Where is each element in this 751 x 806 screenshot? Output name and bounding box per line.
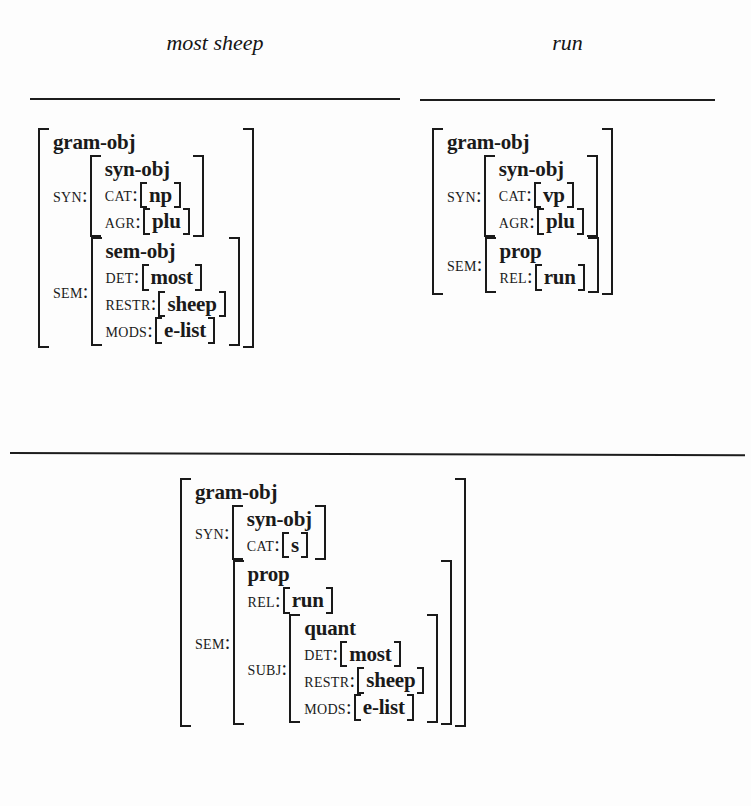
attr-label: MODS [304, 696, 353, 720]
value-text: plu [544, 208, 577, 235]
feature-agr: AGR plu [105, 208, 190, 235]
feature-cat: CAT np [105, 182, 190, 209]
rule-middle [10, 452, 745, 456]
value-text: e-list [162, 317, 208, 344]
rule-right [420, 99, 715, 101]
value-text: sheep [165, 291, 218, 318]
value-text: np [147, 182, 174, 209]
bracket-open [282, 532, 289, 559]
attr-label: SEM [447, 253, 484, 277]
attr-label: REL [248, 589, 282, 613]
bracket-open [38, 128, 49, 348]
bracket-open [180, 478, 191, 727]
avm-body: syn-obj CAT s [243, 505, 315, 561]
bracket-open [142, 264, 149, 291]
attr-label: AGR [105, 210, 142, 234]
value-text: plu [150, 208, 183, 235]
feature-sem: SEM prop REL run [447, 237, 599, 293]
type-label: prop [248, 562, 439, 587]
avm-prop: prop REL run SUBJ [233, 560, 453, 725]
atomic-value: plu [143, 208, 190, 235]
bracket-close [455, 478, 466, 727]
atomic-value: e-list [354, 694, 414, 721]
feature-mods: MODS e-list [304, 694, 424, 721]
bracket-close [407, 694, 414, 721]
atomic-value: e-list [155, 317, 215, 344]
bracket-close [315, 505, 326, 561]
avm-body: gram-obj SYN syn-obj CAT vp [443, 128, 602, 295]
value-text: run [542, 264, 578, 291]
type-label: syn-obj [247, 507, 312, 532]
rule-left [30, 98, 400, 100]
feature-syn: SYN syn-obj CAT s [195, 505, 452, 561]
value-text: vp [541, 182, 567, 209]
type-label: prop [500, 239, 585, 264]
avm-sentence: gram-obj SYN syn-obj CAT s [180, 478, 466, 727]
type-label: syn-obj [499, 157, 584, 182]
bracket-close [578, 264, 585, 291]
attr-label: RESTR [304, 669, 356, 693]
type-label: quant [304, 616, 424, 641]
avm-quant: quant DET most [289, 614, 438, 723]
type-label: syn-obj [105, 157, 190, 182]
atomic-value: run [283, 587, 333, 614]
avm-body: syn-obj CAT np AGR plu [101, 155, 193, 237]
attr-label: SYN [195, 521, 231, 545]
bracket-close [394, 641, 401, 668]
feature-det: DET most [106, 264, 226, 291]
attr-label: SYN [53, 184, 89, 208]
bracket-close [417, 667, 424, 694]
bracket-open [91, 237, 102, 346]
atomic-value: plu [537, 208, 584, 235]
avm-syn-obj: syn-obj CAT np AGR plu [90, 155, 204, 237]
value-text: s [289, 532, 301, 559]
type-label: sem-obj [106, 239, 226, 264]
attr-label: RESTR [106, 292, 158, 316]
avm-prop: prop REL run [485, 237, 599, 293]
bracket-close [567, 182, 574, 209]
avm-most-sheep: gram-obj SYN syn-obj CAT np [38, 128, 254, 348]
avm-run: gram-obj SYN syn-obj CAT vp [432, 128, 613, 295]
feature-restr: RESTR sheep [304, 667, 424, 694]
type-label: gram-obj [195, 480, 452, 505]
bracket-close [193, 155, 204, 237]
value-text: run [290, 587, 326, 614]
bracket-close [602, 128, 613, 295]
bracket-close [577, 208, 584, 235]
bracket-close [229, 237, 240, 346]
header-most-sheep: most sheep [30, 30, 400, 56]
atomic-value: most [142, 264, 202, 291]
bracket-close [427, 614, 438, 723]
bracket-close [195, 264, 202, 291]
atomic-value: sheep [357, 667, 424, 694]
bracket-open [432, 128, 443, 295]
bracket-close [441, 560, 452, 725]
feature-syn: SYN syn-obj CAT vp AGR [447, 155, 599, 237]
bracket-open [537, 208, 544, 235]
bracket-open [485, 237, 496, 293]
feature-cat: CAT vp [499, 182, 584, 209]
bracket-open [90, 155, 101, 237]
attr-label: DET [304, 642, 339, 666]
bracket-close [301, 532, 308, 559]
value-text: sheep [364, 667, 417, 694]
bracket-open [484, 155, 495, 237]
bracket-close [174, 182, 181, 209]
avm-body: gram-obj SYN syn-obj CAT np [49, 128, 243, 348]
atomic-value: np [140, 182, 181, 209]
attr-label: MODS [106, 319, 155, 343]
value-text: e-list [361, 694, 407, 721]
feature-agr: AGR plu [499, 208, 584, 235]
bracket-open [155, 317, 162, 344]
bracket-open [158, 291, 165, 318]
feature-sem: SEM sem-obj DET most RESTR [53, 237, 240, 346]
bracket-open [140, 182, 147, 209]
attr-label: DET [106, 265, 141, 289]
attr-label: REL [500, 265, 534, 289]
bracket-open [340, 641, 347, 668]
attr-label: SEM [53, 280, 90, 304]
atomic-value: vp [534, 182, 574, 209]
avm-body: quant DET most [300, 614, 427, 723]
value-text: most [149, 264, 195, 291]
bracket-close [243, 128, 254, 348]
